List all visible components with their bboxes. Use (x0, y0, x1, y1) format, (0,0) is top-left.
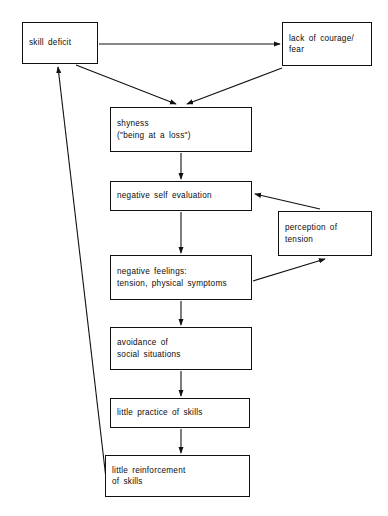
flowchart-diagram: skill deficit lack of courage/ fear shyn… (0, 0, 388, 516)
node-label: avoidance of (117, 337, 245, 349)
node-label: tension, physical symptoms (117, 278, 245, 290)
node-label: perception of (285, 222, 365, 234)
node-label: negative feelings: (117, 266, 245, 278)
node-label: lack of courage/ (289, 33, 365, 45)
node-label: social situations (117, 349, 245, 361)
node-label: skill deficit (29, 37, 91, 49)
edge-skill-deficit-to-shyness (76, 65, 176, 104)
node-label: negative self evaluation (117, 190, 245, 202)
edge-perception-of-tension-to-negative-self-evaluation (255, 194, 320, 209)
edge-little-reinforcement-to-skill-deficit (58, 67, 107, 487)
node-label: little reinforcement (112, 465, 243, 477)
node-little-practice[interactable]: little practice of skills (110, 398, 250, 428)
edge-lack-of-courage-to-shyness (187, 68, 282, 104)
node-shyness[interactable]: shyness ("being at a loss") (110, 107, 252, 152)
node-label: shyness (117, 118, 245, 130)
node-skill-deficit[interactable]: skill deficit (22, 22, 98, 64)
node-negative-feelings[interactable]: negative feelings: tension, physical sym… (110, 255, 252, 300)
node-perception-of-tension[interactable]: perception of tension (278, 211, 372, 256)
edge-negative-feelings-to-perception-of-tension (253, 259, 325, 281)
node-label: fear (289, 44, 365, 56)
node-label: tension (285, 234, 365, 246)
node-label: ("being at a loss") (117, 130, 245, 142)
node-negative-self-evaluation[interactable]: negative self evaluation (110, 181, 252, 211)
node-label: of skills (112, 476, 243, 488)
node-lack-of-courage[interactable]: lack of courage/ fear (282, 22, 372, 66)
node-little-reinforcement[interactable]: little reinforcement of skills (105, 455, 250, 497)
node-label: little practice of skills (117, 407, 243, 419)
node-avoidance[interactable]: avoidance of social situations (110, 327, 252, 370)
